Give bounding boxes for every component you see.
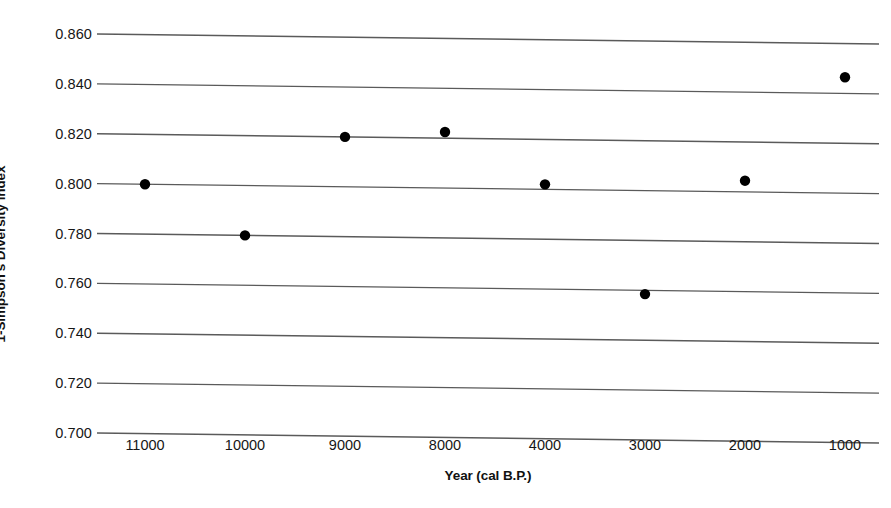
x-axis-tick-label: 11000 <box>90 437 200 453</box>
gridline-group <box>97 34 879 443</box>
y-axis-tick-label: 0.820 <box>32 126 92 142</box>
x-axis-title: Year (cal B.P.) <box>97 468 879 483</box>
data-point <box>240 230 250 240</box>
y-axis-tick-label-group: 0.8600.8400.8200.8000.7800.7600.7400.720… <box>30 0 92 508</box>
y-axis-tick-label: 0.760 <box>32 275 92 291</box>
y-axis-tick-label: 0.700 <box>32 425 92 441</box>
y-axis-tick-label: 0.720 <box>32 375 92 391</box>
data-point <box>140 179 150 189</box>
gridline <box>97 283 879 293</box>
gridline <box>97 333 879 343</box>
gridline <box>97 34 879 44</box>
y-axis-tick-label: 0.740 <box>32 325 92 341</box>
x-axis-tick-label: 4000 <box>490 437 600 453</box>
gridline <box>97 84 879 94</box>
y-axis-tick-label: 0.860 <box>32 26 92 42</box>
data-point <box>740 175 750 185</box>
plot-svg <box>97 0 879 508</box>
y-axis-tick-label: 0.840 <box>32 76 92 92</box>
x-axis-tick-label: 10000 <box>190 437 300 453</box>
gridline <box>97 184 879 194</box>
scatter-chart-figure: 1-Simpson's Diversity Index 0.8600.8400.… <box>0 0 891 508</box>
data-point <box>340 132 350 142</box>
data-point <box>440 127 450 137</box>
gridline <box>97 134 879 144</box>
gridline <box>97 234 879 244</box>
x-axis-tick-label: 3000 <box>590 437 700 453</box>
x-axis-tick-label: 9000 <box>290 437 400 453</box>
data-point <box>840 72 850 82</box>
x-axis-tick-label-group: 1100010000900080004000300020001000 <box>97 437 879 461</box>
gridline <box>97 383 879 393</box>
data-point <box>540 179 550 189</box>
y-axis-tick-label: 0.800 <box>32 176 92 192</box>
x-axis-tick-label: 8000 <box>390 437 500 453</box>
data-point <box>640 289 650 299</box>
x-axis-tick-label: 2000 <box>690 437 800 453</box>
x-axis-tick-label: 1000 <box>790 437 891 453</box>
plot-area <box>97 0 879 508</box>
y-axis-tick-label: 0.780 <box>32 226 92 242</box>
